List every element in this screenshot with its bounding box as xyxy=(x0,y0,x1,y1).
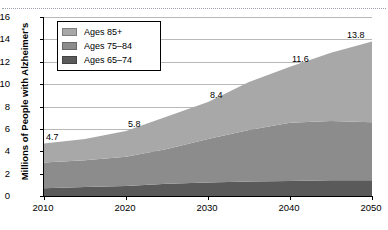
y-tick-label: 14 xyxy=(0,34,10,44)
y-tick-label: 0 xyxy=(0,191,10,201)
x-tick-label: 2040 xyxy=(259,203,319,213)
x-tick-mark xyxy=(126,196,127,200)
legend-item[interactable]: Ages 85+ xyxy=(62,25,156,39)
x-tick-mark xyxy=(44,196,45,200)
legend-label: Ages 65–74 xyxy=(84,56,132,65)
data-label: 5.8 xyxy=(128,120,141,129)
legend: Ages 85+ Ages 75–84 Ages 65–74 xyxy=(57,21,161,71)
y-tick-label: 2 xyxy=(0,169,10,179)
legend-label: Ages 85+ xyxy=(84,28,122,37)
cut-off-heading xyxy=(2,0,92,6)
x-tick-label: 2020 xyxy=(95,203,155,213)
data-label: 8.4 xyxy=(210,91,223,100)
legend-swatch-ages-85-plus xyxy=(62,28,77,36)
data-label: 11.6 xyxy=(292,55,309,64)
y-tick-label: 16 xyxy=(0,12,10,22)
y-tick-label: 10 xyxy=(0,79,10,89)
legend-swatch-ages-75-84 xyxy=(62,42,77,50)
y-tick-mark xyxy=(40,39,44,40)
y-axis-title: Millions of People with Alzheimer's xyxy=(19,12,30,192)
legend-item[interactable]: Ages 65–74 xyxy=(62,53,156,67)
top-dotted-separator xyxy=(2,8,386,9)
y-tick-mark xyxy=(40,62,44,63)
x-tick-label: 2010 xyxy=(13,203,73,213)
alzheimers-projection-chart: Millions of People with Alzheimer's 0246… xyxy=(0,0,388,230)
y-tick-label: 12 xyxy=(0,57,10,67)
y-tick-label: 8 xyxy=(0,102,10,112)
legend-label: Ages 75–84 xyxy=(84,42,132,51)
data-label: 4.7 xyxy=(46,133,59,142)
x-tick-mark xyxy=(372,196,373,200)
y-tick-mark xyxy=(40,129,44,130)
x-tick-mark xyxy=(208,196,209,200)
x-tick-label: 2030 xyxy=(177,203,237,213)
x-tick-label: 2050 xyxy=(341,203,388,213)
y-tick-label: 6 xyxy=(0,124,10,134)
legend-swatch-ages-65-74 xyxy=(62,56,77,64)
y-tick-mark xyxy=(40,107,44,108)
data-label: 13.8 xyxy=(347,31,365,40)
y-tick-label: 4 xyxy=(0,146,10,156)
y-tick-mark xyxy=(40,151,44,152)
y-tick-mark xyxy=(40,84,44,85)
x-tick-mark xyxy=(290,196,291,200)
y-tick-mark xyxy=(40,17,44,18)
y-tick-mark xyxy=(40,174,44,175)
legend-item[interactable]: Ages 75–84 xyxy=(62,39,156,53)
